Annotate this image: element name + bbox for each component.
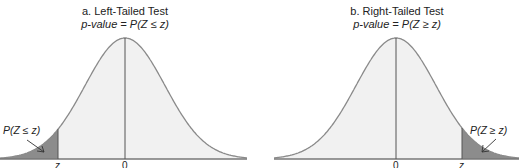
left-area-label: P(Z ≤ z) <box>3 124 40 136</box>
left-tick-z: z <box>55 160 60 168</box>
left-title: a. Left-Tailed Test p-value = P(Z ≤ z) <box>25 5 225 31</box>
right-title: b. Right-Tailed Test p-value = P(Z ≥ z) <box>297 5 497 31</box>
right-tailed-panel: b. Right-Tailed Test p-value = P(Z ≥ z) … <box>259 0 519 168</box>
left-tailed-panel: a. Left-Tailed Test p-value = P(Z ≤ z) P… <box>0 0 260 168</box>
left-tick-zero: 0 <box>122 160 128 168</box>
right-tick-z: z <box>459 160 464 168</box>
right-area-label: P(Z ≥ z) <box>470 124 507 136</box>
right-tick-zero: 0 <box>393 160 399 168</box>
